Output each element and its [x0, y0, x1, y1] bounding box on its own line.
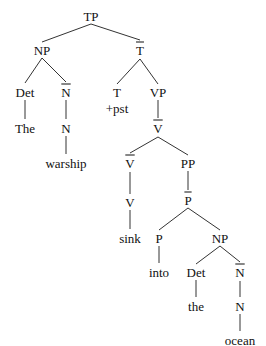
tree-node-p: P — [155, 232, 162, 245]
tree-node-sink: sink — [119, 232, 141, 245]
tree-node-nbar1: N — [61, 86, 70, 99]
tree-node-det2: Det — [187, 266, 206, 279]
tree-node-np2: NP — [212, 232, 229, 245]
tree-node-pp: PP — [181, 157, 195, 170]
tree-node-np1: NP — [34, 44, 51, 57]
tree-node-tbar: T — [136, 44, 144, 57]
syntax-tree-diagram: TPNPTDetNT+pstVPTheNVwarshipVPPVPsinkPNP… — [0, 0, 266, 346]
tree-branch — [42, 58, 66, 82]
tree-branch — [220, 246, 240, 262]
tree-branch — [140, 59, 158, 84]
tree-node-pst: +pst — [106, 102, 129, 115]
tree-node-t: T — [113, 86, 121, 99]
tree-branch — [158, 137, 188, 155]
tree-node-vbar2: V — [125, 157, 134, 170]
tree-node-v: V — [125, 196, 134, 209]
tree-node-into: into — [149, 266, 169, 279]
tree-branch — [91, 24, 140, 40]
tree-branch — [117, 59, 140, 84]
tree-node-pbar: P — [184, 194, 191, 207]
tree-node-vp: VP — [150, 86, 167, 99]
tree-node-n1: N — [61, 122, 70, 135]
tree-node-ocean: ocean — [225, 334, 255, 346]
tree-node-the2: the — [188, 300, 204, 313]
tree-branch — [25, 58, 42, 83]
tree-branch — [196, 246, 220, 264]
tree-node-det1: Det — [16, 86, 35, 99]
tree-branch — [188, 208, 220, 230]
tree-branch — [130, 137, 158, 153]
tree-node-the1: The — [15, 122, 35, 135]
tree-branch — [42, 24, 91, 42]
tree-node-n2: N — [235, 300, 244, 313]
tree-node-warship: warship — [45, 157, 86, 170]
tree-node-vbar1: V — [153, 122, 162, 135]
tree-node-nbar2: N — [235, 266, 244, 279]
tree-branch — [159, 208, 188, 230]
tree-node-tp: TP — [83, 10, 98, 23]
